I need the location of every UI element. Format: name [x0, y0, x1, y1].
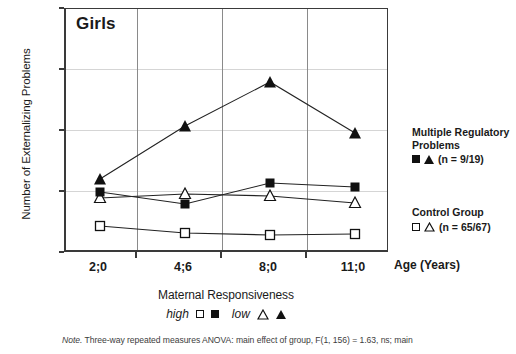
legend-low-label: low: [232, 307, 250, 321]
filled-square-icon: [211, 310, 219, 318]
filled-square-icon: [412, 155, 420, 163]
legend-control-heading: Control Group: [412, 206, 516, 219]
x-tick-mark-3: [305, 252, 307, 258]
legend-multiple-regulatory-problems: Multiple Regulatory Problems (n = 9/19): [412, 126, 516, 166]
marker-filled-square: [351, 183, 360, 192]
marker-open-triangle: [180, 188, 191, 199]
legend-maternal-title: Maternal Responsiveness: [64, 288, 388, 302]
x-axis-title: Age (Years): [394, 258, 460, 272]
footnote-text: Three-way repeated measures ANOVA: main …: [84, 335, 412, 345]
legend-mrp-markers-row: (n = 9/19): [412, 153, 516, 166]
open-triangle-icon: [424, 222, 435, 232]
marker-filled-square: [96, 188, 105, 197]
legend-mrp-n: (n = 9/19): [438, 153, 484, 166]
panel-title: Girls: [76, 14, 116, 34]
marker-open-square: [351, 230, 360, 239]
marker-open-square: [266, 231, 275, 240]
footnote-prefix: Note.: [62, 335, 82, 345]
filled-triangle-icon: [276, 310, 286, 319]
open-square-icon: [196, 310, 204, 318]
plot-area: [64, 8, 388, 252]
marker-filled-triangle: [349, 127, 361, 139]
externalizing-problems-chart: Number of Externalizing Problems 0 1 2 3…: [0, 0, 516, 354]
x-tick-mark-2: [220, 252, 222, 258]
legend-control-group: Control Group (n = 65/67): [412, 206, 516, 233]
series-line-filled-square: [100, 183, 355, 204]
legend-control-n: (n = 65/67): [439, 221, 491, 234]
marker-open-square: [181, 229, 190, 238]
marker-filled-square: [181, 200, 190, 209]
filled-triangle-icon: [424, 155, 434, 164]
x-tick-mark-1: [135, 252, 137, 258]
marker-open-square: [96, 222, 105, 231]
series-line-filled-triangle: [100, 82, 355, 179]
y-axis-title: Number of Externalizing Problems: [20, 12, 32, 257]
series-line-open-square: [100, 226, 355, 235]
x-tick-label-8-0: 8;0: [233, 260, 303, 274]
x-tick-label-2-0: 2;0: [63, 260, 133, 274]
series-layer: [66, 9, 390, 253]
open-square-icon: [412, 223, 420, 231]
marker-filled-triangle: [264, 76, 276, 88]
series-line-open-triangle: [100, 194, 355, 203]
marker-open-triangle: [265, 190, 276, 201]
marker-filled-triangle: [179, 120, 191, 132]
open-triangle-icon: [257, 309, 269, 320]
x-tick-label-4-6: 4;6: [148, 260, 218, 274]
x-tick-label-11-0: 11;0: [318, 260, 388, 274]
legend-high-label: high: [166, 307, 189, 321]
legend-mrp-heading-line2: Problems: [412, 139, 516, 152]
legend-maternal-responsiveness: Maternal Responsiveness high low: [64, 288, 388, 321]
marker-filled-triangle: [94, 173, 106, 185]
marker-filled-square: [266, 179, 275, 188]
legend-maternal-row: high low: [64, 307, 388, 321]
footnote: Note. Three-way repeated measures ANOVA:…: [62, 335, 413, 345]
legend-control-markers-row: (n = 65/67): [412, 221, 516, 234]
legend-mrp-heading-line1: Multiple Regulatory: [412, 126, 516, 139]
